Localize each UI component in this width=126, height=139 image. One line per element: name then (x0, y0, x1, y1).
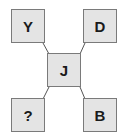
box-label: J (60, 62, 68, 79)
box-top-right: D (83, 9, 117, 43)
box-bottom-right: B (83, 98, 117, 132)
box-center: J (47, 53, 81, 87)
box-label: B (95, 107, 106, 124)
box-label: D (95, 18, 106, 35)
letter-puzzle-diagram: Y D J ? B (0, 0, 126, 139)
box-top-left: Y (11, 9, 45, 43)
box-label: Y (23, 18, 33, 35)
box-bottom-left-unknown: ? (11, 98, 45, 132)
box-label: ? (23, 107, 32, 124)
